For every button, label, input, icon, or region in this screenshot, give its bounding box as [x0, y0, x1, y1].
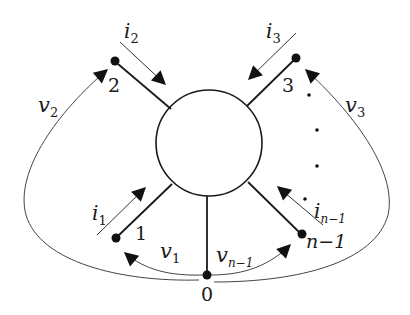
current-label-i3: i3 — [266, 19, 281, 46]
current-label-i1: i1 — [92, 201, 107, 228]
current-label-in-1: in−1 — [314, 199, 346, 226]
voltage-arc-v2 — [24, 70, 199, 280]
ellipsis-dots — [303, 93, 319, 201]
terminal-2-dot — [111, 57, 120, 66]
terminal-n-1-label: n−1 — [306, 230, 346, 252]
terminal-3-label: 3 — [282, 74, 294, 96]
voltage-arc-v3 — [214, 70, 389, 282]
terminal-2-label: 2 — [108, 74, 120, 96]
terminal-0-dot — [203, 271, 212, 280]
voltage-label-v3: v3 — [345, 93, 365, 120]
voltage-label-v1: v1 — [160, 239, 180, 266]
terminal-3-dot — [292, 54, 301, 63]
current-label-i2: i2 — [124, 19, 139, 46]
terminal-1-label: 1 — [135, 222, 147, 244]
lead-terminal-n-1 — [248, 182, 299, 232]
voltage-label-vn-1: vn−1 — [216, 243, 253, 270]
terminal-1-dot — [112, 234, 121, 243]
network-circle — [156, 90, 262, 196]
reference-node-label: 0 — [201, 283, 213, 305]
lead-terminal-2 — [118, 64, 171, 109]
voltage-label-v2: v2 — [38, 93, 58, 120]
n-terminal-network-diagram: 2 3 1 n−1 0 i2 i3 i1 in−1 v2 v3 v1 vn−1 — [0, 0, 410, 315]
current-arrow-i2 — [120, 42, 165, 84]
